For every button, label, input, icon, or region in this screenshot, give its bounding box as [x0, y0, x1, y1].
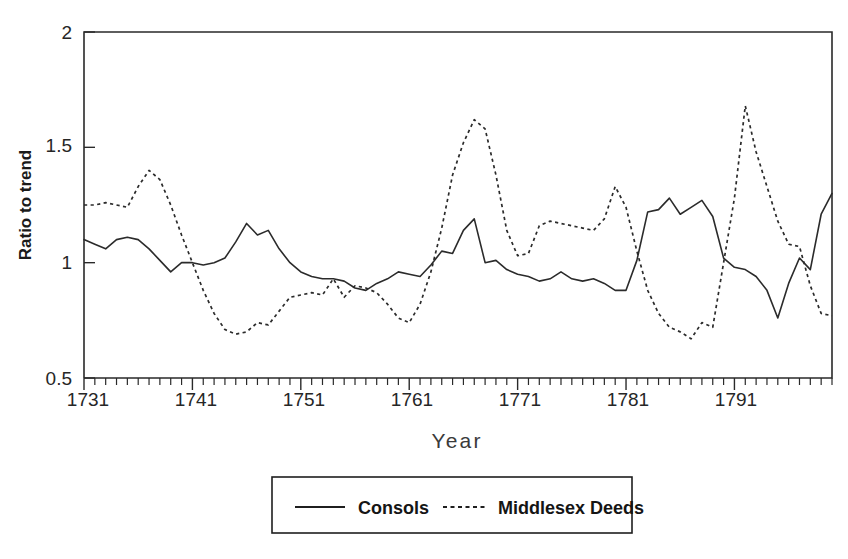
x-tick-label-1771: 1771	[499, 389, 541, 410]
legend-label-middlesex-deeds: Middlesex Deeds	[498, 498, 644, 518]
x-tick-label-1781: 1781	[607, 389, 649, 410]
x-tick-label-1761: 1761	[391, 389, 433, 410]
chart-figure: 2 1.5 1 0.5 1731 1741 1751 1761 1771 178…	[0, 0, 848, 559]
y-tick-label-2: 2	[61, 22, 72, 43]
x-tick-label-1731: 1731	[67, 389, 109, 410]
x-tick-label-1751: 1751	[283, 389, 325, 410]
x-tick-label-1791: 1791	[715, 389, 757, 410]
chart-legend: Consols Middlesex Deeds	[272, 477, 644, 533]
y-axis-title: Ratio to trend	[16, 150, 35, 261]
y-tick-label-0-5: 0.5	[46, 368, 72, 389]
y-tick-label-1-5: 1.5	[46, 135, 72, 156]
y-tick-label-1: 1	[61, 252, 72, 273]
x-tick-label-1741: 1741	[175, 389, 217, 410]
chart-canvas: 2 1.5 1 0.5 1731 1741 1751 1761 1771 178…	[0, 0, 848, 559]
x-axis-title: Year	[431, 429, 482, 452]
legend-label-consols: Consols	[358, 498, 429, 518]
